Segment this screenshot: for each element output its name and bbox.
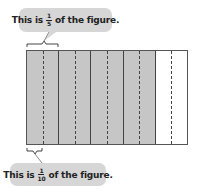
numerator: 1: [47, 13, 51, 19]
dashed-divider: [171, 51, 172, 144]
figure-column-1: [27, 51, 59, 144]
denominator: 10: [38, 176, 46, 182]
denominator: 5: [47, 21, 51, 27]
dashed-divider: [75, 51, 76, 144]
callout-one-tenth: This is 1 10 of the figure.: [10, 163, 106, 186]
callout-one-fifth: This is 1 5 of the figure.: [19, 8, 112, 32]
fraction-one-fifth: 1 5: [46, 13, 52, 27]
callout-suffix: of the figure.: [55, 15, 119, 25]
fraction-figure: [26, 50, 188, 145]
callout-prefix: This is: [12, 15, 43, 25]
dashed-divider: [139, 51, 140, 144]
figure-column-2: [59, 51, 91, 144]
figure-column-4: [124, 51, 156, 144]
figure-column-5: [156, 51, 187, 144]
callout-prefix: This is: [3, 170, 34, 180]
dashed-divider: [43, 51, 44, 144]
numerator: 1: [40, 168, 44, 174]
dashed-divider: [107, 51, 108, 144]
callout-suffix: of the figure.: [48, 170, 112, 180]
fraction-one-tenth: 1 10: [38, 168, 46, 182]
figure-column-3: [91, 51, 123, 144]
